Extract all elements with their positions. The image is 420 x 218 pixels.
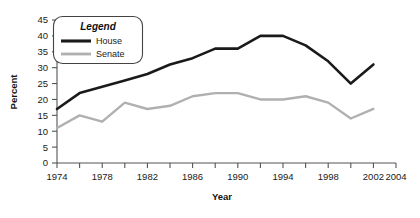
x-tick-label: 1982 [137, 171, 158, 182]
legend-label-house: House [96, 36, 122, 46]
y-tick-label: 25 [37, 78, 48, 89]
legend-title: Legend [80, 21, 116, 32]
x-axis-title: Year [212, 191, 232, 202]
y-tick-label: 0 [43, 157, 48, 168]
x-tick-label: 1978 [92, 171, 113, 182]
y-tick-label: 45 [37, 14, 48, 25]
x-tick-label: 1986 [182, 171, 203, 182]
x-tick-label: 2002 [363, 171, 384, 182]
chart-canvas: 051015202530354045 197419781982198619901… [0, 0, 420, 218]
y-tick-label: 20 [37, 94, 48, 105]
legend: Legend HouseSenate [54, 17, 143, 64]
x-tick-label: 1998 [318, 171, 339, 182]
y-tick-label: 10 [37, 126, 48, 137]
y-tick-label: 15 [37, 110, 48, 121]
y-tick-label: 40 [37, 30, 48, 41]
x-tick-label: 1994 [272, 171, 293, 182]
line-chart: 051015202530354045 197419781982198619901… [0, 0, 420, 218]
y-tick-label: 35 [37, 46, 48, 57]
x-tick-label: 1990 [227, 171, 248, 182]
y-axis-title: Percent [8, 74, 19, 110]
x-tick-label: 2004 [385, 171, 406, 182]
legend-label-senate: Senate [96, 49, 125, 59]
x-tick-label: 1974 [46, 171, 67, 182]
y-tick-label: 30 [37, 62, 48, 73]
y-tick-label: 5 [43, 142, 48, 153]
